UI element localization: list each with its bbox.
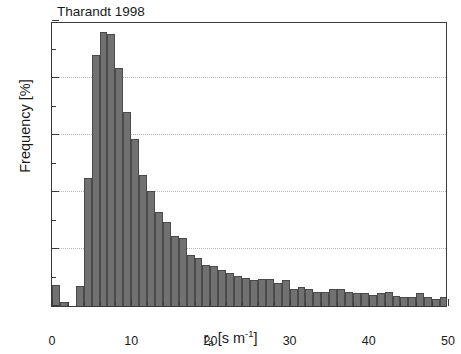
histogram-bar bbox=[440, 297, 446, 306]
y-axis-title: Frequency [%] bbox=[17, 26, 33, 226]
x-tick-14 bbox=[163, 302, 164, 306]
y-tick-1 bbox=[52, 277, 56, 278]
histogram-bar bbox=[84, 178, 92, 306]
histogram-bar bbox=[155, 212, 163, 306]
histogram-bar bbox=[345, 292, 353, 306]
x-tick-28 bbox=[274, 302, 275, 306]
y-tick-7 bbox=[52, 106, 56, 107]
x-tick-label-40: 40 bbox=[362, 335, 376, 348]
x-tick-50 bbox=[448, 299, 449, 306]
histogram-bar bbox=[60, 302, 68, 306]
histogram-bar bbox=[179, 238, 187, 306]
histogram-bar bbox=[202, 265, 210, 306]
histogram-bar bbox=[313, 292, 321, 306]
x-tick-42 bbox=[385, 302, 386, 306]
histogram-bar bbox=[234, 276, 242, 306]
histogram-bar bbox=[298, 287, 306, 306]
x-tick-6 bbox=[100, 302, 101, 306]
x-tick-4 bbox=[84, 302, 85, 306]
x-axis-title: ra [s m-1] bbox=[0, 330, 461, 346]
histogram-bar bbox=[107, 34, 115, 306]
y-tick-9 bbox=[52, 49, 56, 50]
x-axis-title-unit-open: [s m bbox=[214, 330, 245, 346]
histogram-bar bbox=[432, 299, 440, 306]
x-tick-38 bbox=[353, 302, 354, 306]
histogram-bar bbox=[408, 297, 416, 306]
x-tick-2 bbox=[68, 302, 69, 306]
y-tick-0 bbox=[52, 305, 59, 306]
x-axis-title-superscript: -1 bbox=[245, 328, 253, 339]
x-tick-label-30: 30 bbox=[283, 335, 297, 348]
x-tick-10 bbox=[131, 299, 132, 306]
histogram-bar bbox=[115, 68, 123, 306]
histogram-bar bbox=[76, 286, 84, 306]
histogram-bar bbox=[218, 270, 226, 306]
histogram-bar bbox=[187, 255, 195, 306]
histogram-bar bbox=[353, 293, 361, 306]
histogram-bar bbox=[337, 289, 345, 306]
x-tick-8 bbox=[115, 302, 116, 306]
figure-histogram: Tharandt 1998 Frequency [%] ra [s m-1] 0… bbox=[0, 0, 461, 354]
x-tick-46 bbox=[416, 302, 417, 306]
histogram-bar bbox=[226, 273, 234, 306]
histogram-bar bbox=[92, 55, 100, 306]
x-tick-34 bbox=[321, 302, 322, 306]
histogram-bar bbox=[282, 280, 290, 306]
chart-title: Tharandt 1998 bbox=[57, 4, 145, 19]
histogram-bar bbox=[416, 293, 424, 306]
histogram-bar bbox=[393, 296, 401, 306]
histogram-bar bbox=[305, 289, 313, 306]
histogram-bar bbox=[321, 292, 329, 306]
histogram-bar bbox=[400, 297, 408, 306]
histogram-bar bbox=[52, 285, 60, 306]
y-tick-5 bbox=[52, 163, 56, 164]
histogram-bar bbox=[266, 279, 274, 306]
x-tick-40 bbox=[369, 299, 370, 306]
x-tick-label-0: 0 bbox=[49, 335, 56, 348]
x-tick-26 bbox=[258, 302, 259, 306]
y-tick-3 bbox=[52, 220, 56, 221]
histogram-bar bbox=[139, 175, 147, 306]
x-tick-18 bbox=[195, 302, 196, 306]
plot-area: 0246810 01020304050 bbox=[51, 22, 447, 307]
y-tick-2 bbox=[52, 248, 59, 249]
x-tick-label-20: 20 bbox=[203, 335, 217, 348]
histogram-bar bbox=[329, 289, 337, 306]
y-tick-10 bbox=[52, 20, 59, 21]
x-tick-label-50: 50 bbox=[441, 335, 455, 348]
x-tick-32 bbox=[305, 302, 306, 306]
histogram-bar bbox=[131, 139, 139, 306]
x-tick-48 bbox=[432, 302, 433, 306]
y-tick-4 bbox=[52, 191, 59, 192]
histogram-bar bbox=[123, 112, 131, 306]
histogram-bar bbox=[361, 293, 369, 306]
x-tick-label-10: 10 bbox=[124, 335, 138, 348]
x-tick-20 bbox=[210, 299, 211, 306]
histogram-bar bbox=[163, 222, 171, 306]
plot-inner bbox=[52, 23, 446, 306]
y-tick-8 bbox=[52, 77, 59, 78]
histogram-bar bbox=[385, 292, 393, 306]
x-axis-title-unit-close: ] bbox=[253, 330, 257, 346]
x-tick-36 bbox=[337, 302, 338, 306]
y-tick-6 bbox=[52, 134, 59, 135]
histogram-bar bbox=[369, 295, 377, 306]
histogram-bar bbox=[377, 293, 385, 306]
x-tick-30 bbox=[290, 299, 291, 306]
histogram-bar bbox=[290, 289, 298, 306]
histogram-bar bbox=[100, 32, 108, 306]
x-tick-44 bbox=[400, 302, 401, 306]
histogram-bar bbox=[242, 278, 250, 307]
histogram-bar bbox=[171, 236, 179, 306]
x-tick-24 bbox=[242, 302, 243, 306]
histogram-bar bbox=[424, 297, 432, 306]
histogram-bar bbox=[258, 279, 266, 306]
histogram-bar bbox=[250, 280, 258, 306]
histogram-bar bbox=[210, 266, 218, 306]
x-tick-12 bbox=[147, 302, 148, 306]
x-tick-22 bbox=[226, 302, 227, 306]
x-tick-16 bbox=[179, 302, 180, 306]
histogram-bar bbox=[147, 191, 155, 306]
histogram-bar bbox=[195, 258, 203, 306]
histogram-bar bbox=[274, 283, 282, 306]
